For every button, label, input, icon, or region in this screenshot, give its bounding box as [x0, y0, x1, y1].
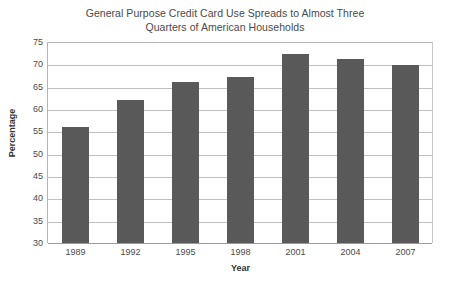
bar-slot: [323, 42, 378, 243]
x-axis-tick-labels: 1989 1992 1995 1998 2001 2004 2007: [48, 247, 433, 257]
bar-slot: [268, 42, 323, 243]
y-axis-tick-labels: 75 70 65 60 55 50 45 40 35 30: [0, 42, 43, 243]
x-tick-label: 1992: [103, 247, 158, 257]
x-tick-label: 2007: [378, 247, 433, 257]
y-tick-label: 70: [3, 59, 43, 69]
bar-chart: General Purpose Credit Card Use Spreads …: [0, 0, 449, 289]
x-tick-label: 1989: [48, 247, 103, 257]
bar-1989: [62, 127, 90, 243]
bar-2004: [337, 59, 365, 243]
bar-slot: [103, 42, 158, 243]
y-tick-label: 65: [3, 82, 43, 92]
bar-1995: [172, 82, 200, 243]
y-tick-label: 55: [3, 126, 43, 136]
y-tick-label: 35: [3, 216, 43, 226]
y-tick-label: 75: [3, 37, 43, 47]
x-tick-label: 1995: [158, 247, 213, 257]
bar-slot: [213, 42, 268, 243]
y-tick-label: 40: [3, 193, 43, 203]
bar-slot: [158, 42, 213, 243]
chart-title-line-2: Quarters of American Households: [50, 20, 400, 34]
bar-2001: [282, 54, 310, 243]
y-tick-label: 60: [3, 104, 43, 114]
bar-1998: [227, 77, 255, 243]
bar-slot: [48, 42, 103, 243]
y-tick-label: 45: [3, 171, 43, 181]
y-tick-label: 50: [3, 149, 43, 159]
chart-title: General Purpose Credit Card Use Spreads …: [50, 6, 400, 34]
x-tick-label: 2001: [268, 247, 323, 257]
bar-slot: [378, 42, 433, 243]
chart-title-line-1: General Purpose Credit Card Use Spreads …: [50, 6, 400, 20]
x-tick-label: 2004: [323, 247, 378, 257]
x-tick-label: 1998: [213, 247, 268, 257]
axis-baseline: [48, 243, 432, 244]
bar-series: [48, 42, 433, 243]
x-axis-title: Year: [48, 263, 433, 273]
y-tick-label: 30: [3, 238, 43, 248]
bar-2007: [392, 65, 420, 243]
bar-1992: [117, 100, 145, 243]
